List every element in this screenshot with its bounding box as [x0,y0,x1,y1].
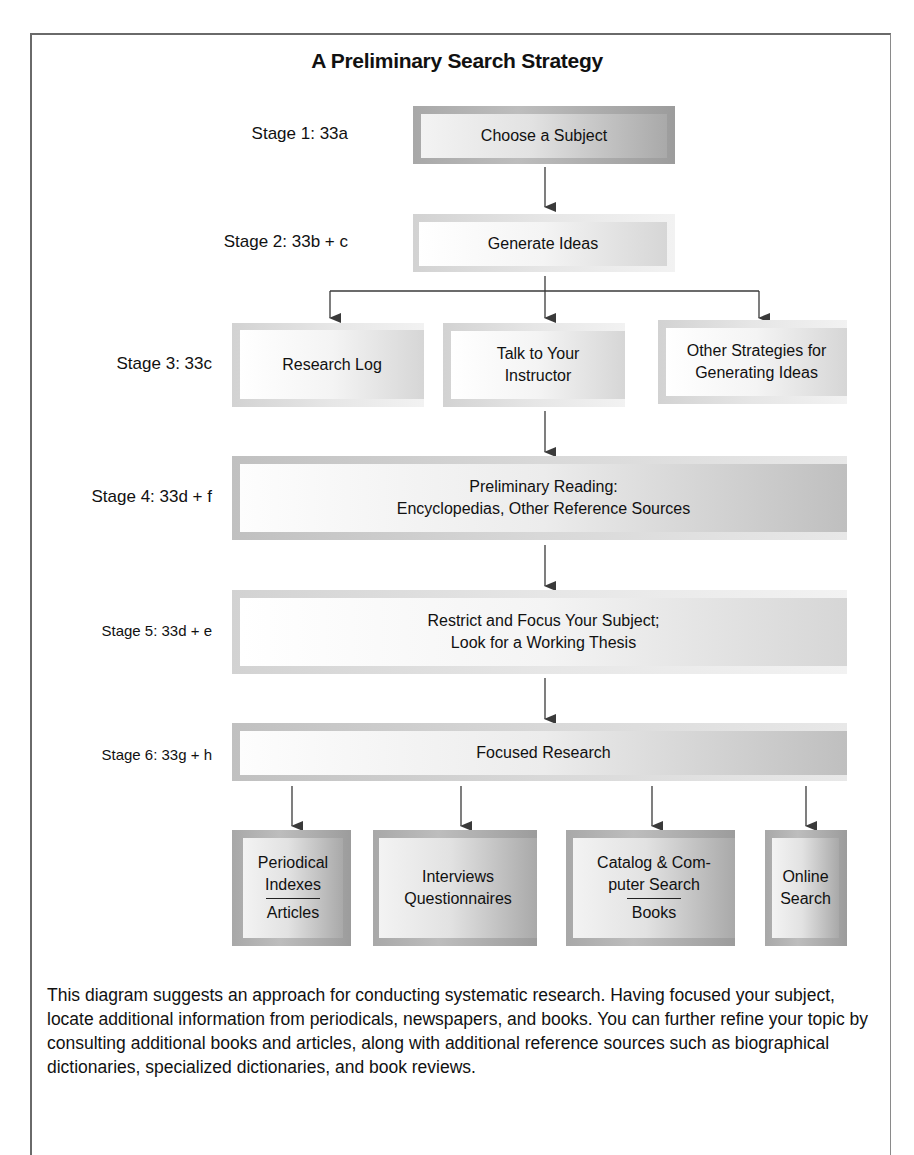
box-interviews: Interviews Questionnaires [373,830,537,946]
box-generate-ideas: Generate Ideas [413,214,675,272]
stage-5-label: Stage 5: 33d + e [101,622,212,639]
box-text: Generating Ideas [695,362,818,384]
box-text: Choose a Subject [481,125,607,147]
box-talk-to-instructor: Talk to Your Instructor [443,323,625,407]
box-text: Focused Research [476,742,610,764]
box-focused-research: Focused Research [232,723,847,781]
box-text: Catalog & Com- [597,852,711,874]
figure-caption: This diagram suggests an approach for co… [47,983,877,1079]
box-text: Restrict and Focus Your Subject; [427,610,659,632]
box-text: Questionnaires [404,888,512,910]
box-text: puter Search [608,874,700,896]
stage-6-label: Stage 6: 33g + h [101,746,212,763]
box-restrict-focus: Restrict and Focus Your Subject; Look fo… [232,590,847,674]
divider [266,898,320,899]
box-text: Preliminary Reading: [469,476,618,498]
box-text: Encyclopedias, Other Reference Sources [397,498,690,520]
stage-2-label: Stage 2: 33b + c [224,232,348,252]
box-text: Other Strategies for [687,340,827,362]
stage-4-label: Stage 4: 33d + f [91,487,212,507]
box-text: Talk to Your [497,343,580,365]
box-text: Look for a Working Thesis [451,632,636,654]
box-text: Instructor [505,365,572,387]
box-text: Books [632,902,676,924]
box-other-strategies: Other Strategies for Generating Ideas [658,320,847,404]
box-text: Interviews [422,866,494,888]
box-preliminary-reading: Preliminary Reading: Encyclopedias, Othe… [232,456,847,540]
box-periodical-indexes: Periodical Indexes Articles [232,830,351,946]
box-research-log: Research Log [232,323,424,407]
box-text: Periodical [258,852,328,874]
box-text: Research Log [282,354,382,376]
box-online-search: Online Search [765,830,847,946]
box-choose-subject: Choose a Subject [413,106,675,164]
box-text: Indexes [265,874,321,896]
box-text: Search [780,888,831,910]
box-text: Online [782,866,828,888]
box-text: Articles [267,902,319,924]
box-catalog-search: Catalog & Com- puter Search Books [566,830,735,946]
stage-3-label: Stage 3: 33c [117,354,212,374]
box-text: Generate Ideas [488,233,598,255]
stage-1-label: Stage 1: 33a [252,124,348,144]
divider [627,898,681,899]
